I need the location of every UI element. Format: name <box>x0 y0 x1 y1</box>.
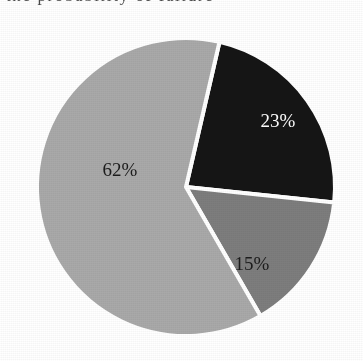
pie-chart-svg: 23%15%62% <box>0 0 363 361</box>
pie-slice-label: 23% <box>261 110 296 131</box>
pie-slice-label: 15% <box>235 253 270 274</box>
pie-chart-figure: 23%15%62% <box>0 0 363 361</box>
pie-slice-label: 62% <box>103 159 138 180</box>
page-root: the probability of failure 23%15%62% <box>0 0 363 361</box>
pie-slice-group <box>37 38 335 336</box>
